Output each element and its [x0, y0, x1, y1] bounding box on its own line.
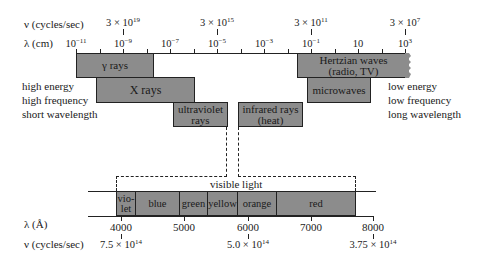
top-wavelength-tick-label-base: 10: [255, 38, 266, 49]
bottom-frequency-tick-label: 7.5 × 1014: [100, 239, 142, 250]
infrared-label-line2: (heat): [258, 115, 284, 126]
bottom-frequency-tick-label: 5.0 × 1014: [227, 239, 269, 250]
top-frequency-tick-mark: [217, 29, 218, 35]
segment-label: blue: [148, 199, 166, 209]
bottom-frequency-tick-label-exp: 14: [390, 238, 397, 246]
bottom-frequency-tick-label-exp: 14: [135, 238, 142, 246]
segment-label: green: [182, 199, 205, 209]
top-wavelength-tick-label-base: 10: [161, 38, 172, 49]
top-axis-minor-tick: [288, 49, 289, 54]
bottom-wavelength-tick-label: 8000: [362, 222, 384, 233]
top-wavelength-tick-label-exp: 3: [409, 37, 413, 45]
top-wavelength-axis-label: λ (cm): [24, 37, 53, 49]
x-rays-label: X rays: [130, 85, 162, 96]
top-frequency-tick-label-exp: 19: [133, 16, 140, 24]
bottom-frequency-tick-label-base: 7.5 × 10: [100, 239, 135, 250]
top-wavelength-tick-label-exp: −1: [313, 37, 320, 45]
bottom-frequency-tick-label: 3.75 × 1014: [349, 239, 396, 250]
visible-connector-right: [238, 127, 239, 177]
top-wavelength-tick-label: 10−11: [65, 38, 86, 49]
visible-segment: orange: [237, 191, 277, 216]
bottom-frequency-axis-label: ν (cycles/sec): [24, 238, 84, 250]
visible-segment: yellow: [207, 191, 238, 216]
top-frequency-tick-label: 3 × 1011: [294, 17, 328, 28]
segment-label: yellow: [208, 199, 237, 209]
top-wavelength-tick-label-exp: −11: [76, 37, 87, 45]
top-wavelength-tick-label: 10−9: [114, 38, 132, 49]
top-wavelength-tick-label-base: 10: [353, 38, 364, 49]
visible-segment: blue: [135, 191, 180, 216]
top-wavelength-tick-label-exp: −3: [266, 37, 273, 45]
visible-segment: red: [276, 191, 356, 216]
gamma-rays-band: γ rays: [76, 53, 154, 78]
top-frequency-tick-mark: [123, 29, 124, 35]
visible-bracket-right-drop: [355, 176, 356, 191]
bottom-wavelength-tick-label: 7000: [300, 222, 322, 233]
ultraviolet-band: ultraviolet rays: [173, 102, 228, 127]
note-low-energy: low energy: [388, 79, 461, 93]
bottom-wavelength-tick-label: 6000: [237, 222, 259, 233]
visible-bracket-right: [238, 176, 356, 177]
top-frequency-axis-label: ν (cycles/sec): [24, 18, 84, 30]
gamma-rays-label: γ rays: [102, 60, 128, 71]
top-wavelength-tick-label-base: 10: [302, 38, 313, 49]
microwaves-band: microwaves: [307, 77, 371, 103]
top-frequency-tick-label-exp: 15: [227, 16, 234, 24]
note-short-wavelength: short wavelength: [22, 107, 97, 121]
microwaves-label: microwaves: [312, 85, 365, 96]
low-energy-notes: low energy low frequency long wavelength: [388, 79, 461, 121]
visible-connector-left: [226, 127, 227, 177]
top-frequency-tick-label-exp: 11: [321, 16, 328, 24]
segment-label-line2: let: [121, 204, 132, 214]
ultraviolet-label-line2: rays: [191, 115, 209, 126]
top-wavelength-tick-label: 10−3: [255, 38, 273, 49]
top-wavelength-tick-label-base: 10: [114, 38, 125, 49]
top-frequency-tick-label-base: 3 × 10: [200, 17, 227, 28]
top-wavelength-tick-label-base: 10: [398, 38, 409, 49]
top-frequency-tick-label-exp: 7: [417, 16, 421, 24]
bottom-wavelength-tick-label: 4000: [110, 222, 132, 233]
top-wavelength-tick-label-exp: −5: [219, 37, 226, 45]
bottom-frequency-tick-label-base: 5.0 × 10: [227, 239, 262, 250]
x-rays-band: X rays: [96, 77, 195, 103]
top-wavelength-tick-label-exp: −9: [125, 37, 132, 45]
bottom-wavelength-tick-label: 5000: [173, 222, 195, 233]
bottom-frequency-tick-label-base: 3.75 × 10: [349, 239, 389, 250]
segment-label: vio-: [118, 194, 135, 204]
ultraviolet-label-line1: ultraviolet: [178, 104, 223, 115]
visible-segment: green: [179, 191, 208, 216]
top-frequency-tick-label: 3 × 1019: [106, 17, 140, 28]
infrared-band: infrared rays (heat): [238, 102, 303, 127]
jagged-edge-icon: [405, 53, 413, 78]
top-frequency-tick-label: 3 × 107: [390, 17, 420, 28]
bottom-frequency-tick-label-exp: 14: [262, 238, 269, 246]
top-wavelength-tick-label-base: 10: [208, 38, 219, 49]
top-wavelength-tick-label: 10−5: [208, 38, 226, 49]
top-axis-minor-tick: [241, 49, 242, 54]
infrared-label-line1: infrared rays: [243, 104, 299, 115]
top-wavelength-tick-label: 10−7: [161, 38, 179, 49]
top-wavelength-tick-label-exp: −7: [172, 37, 179, 45]
top-frequency-tick-label-base: 3 × 10: [390, 17, 417, 28]
segment-label: orange: [243, 199, 272, 209]
hertzian-waves-band: Hertzian waves (radio, TV): [297, 53, 409, 78]
top-frequency-tick-label: 3 × 1015: [200, 17, 234, 28]
hertzian-label-line1: Hertzian waves: [319, 55, 387, 66]
top-wavelength-tick-label-base: 10: [65, 38, 76, 49]
top-frequency-tick-label-base: 3 × 10: [294, 17, 321, 28]
top-frequency-tick-label-base: 3 × 10: [106, 17, 133, 28]
top-frequency-tick-mark: [311, 29, 312, 35]
visible-light-title: visible light: [210, 178, 262, 190]
note-high-frequency: high frequency: [22, 93, 97, 107]
bottom-wavelength-axis-label: λ (Å): [24, 218, 47, 230]
top-frequency-tick-mark: [405, 29, 406, 35]
top-axis-minor-tick: [194, 49, 195, 54]
segment-label: red: [309, 199, 322, 209]
note-high-energy: high energy: [22, 79, 97, 93]
visible-bracket-left-drop: [116, 176, 117, 191]
high-energy-notes: high energy high frequency short wavelen…: [22, 79, 97, 121]
hertzian-label-line2: (radio, TV): [329, 66, 379, 77]
top-wavelength-tick-label: 10: [353, 38, 364, 49]
note-low-frequency: low frequency: [388, 93, 461, 107]
note-long-wavelength: long wavelength: [388, 107, 461, 121]
